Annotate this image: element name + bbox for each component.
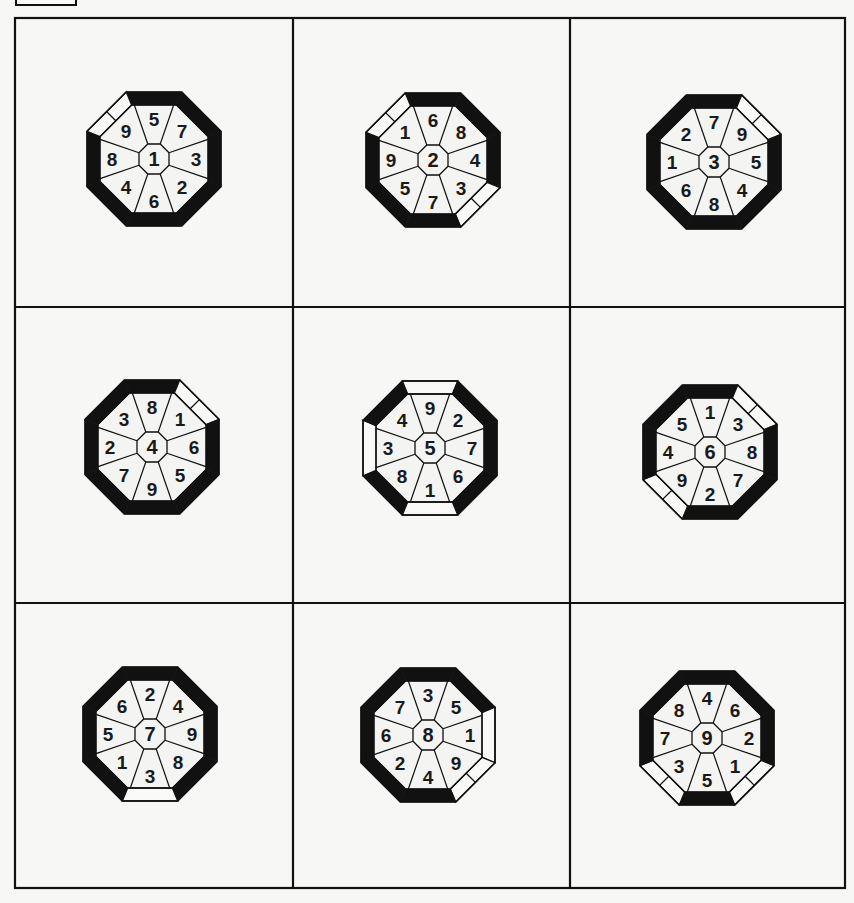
border-side-n-open (402, 381, 458, 394)
border-side-n-filled (679, 671, 735, 684)
region-label-ne: 7 (177, 121, 188, 142)
cells: 1573264892684375913795486124816597235927… (83, 92, 781, 805)
center-number: 2 (427, 149, 438, 171)
region-label-s: 8 (709, 194, 720, 215)
region-label-ne: 6 (730, 700, 741, 721)
octagon-cell-2: 268437591 (366, 93, 500, 227)
border-side-s-filled (124, 501, 180, 514)
region-label-w: 2 (105, 437, 116, 458)
region-label-e: 3 (191, 149, 202, 170)
region-label-nw: 2 (681, 124, 692, 145)
center-number: 9 (701, 727, 712, 749)
magic-square-octagon-grid: 1573264892684375913795486124816597235927… (0, 0, 854, 903)
region-label-ne: 5 (451, 697, 462, 718)
border-side-w-filled (647, 134, 660, 190)
border-side-e-filled (484, 420, 497, 476)
region-label-e: 9 (187, 724, 198, 745)
region-label-se: 6 (453, 466, 464, 487)
region-label-n: 4 (702, 688, 713, 709)
border-side-e-filled (204, 706, 217, 762)
region-label-se: 7 (733, 470, 744, 491)
region-label-n: 1 (705, 402, 716, 423)
border-side-n-filled (686, 95, 742, 108)
region-label-nw: 4 (397, 410, 408, 431)
border-side-e-filled (487, 132, 500, 188)
region-label-w: 4 (663, 442, 674, 463)
border-side-e-filled (764, 424, 777, 480)
border-side-n-filled (126, 92, 182, 105)
region-label-n: 6 (428, 110, 439, 131)
center-number: 5 (424, 437, 435, 459)
region-label-e: 6 (189, 437, 200, 458)
region-label-nw: 5 (677, 414, 688, 435)
border-side-n-filled (405, 93, 461, 106)
region-label-sw: 3 (674, 756, 685, 777)
region-label-w: 8 (107, 149, 118, 170)
border-side-w-filled (643, 424, 656, 480)
region-label-w: 1 (667, 152, 678, 173)
region-label-w: 5 (103, 724, 114, 745)
region-label-ne: 2 (453, 410, 464, 431)
region-label-sw: 9 (677, 470, 688, 491)
border-side-e-open (482, 707, 495, 763)
region-label-ne: 9 (737, 124, 748, 145)
region-label-nw: 6 (117, 696, 128, 717)
region-label-sw: 1 (117, 752, 128, 773)
region-label-n: 5 (149, 109, 160, 130)
region-label-e: 4 (470, 150, 481, 171)
border-side-e-filled (206, 419, 219, 475)
region-label-n: 7 (709, 112, 720, 133)
octagon-cell-1: 157326489 (87, 92, 221, 226)
border-side-n-filled (122, 667, 178, 680)
region-label-se: 8 (173, 752, 184, 773)
region-label-s: 2 (705, 484, 716, 505)
center-number: 3 (708, 151, 719, 173)
center-number: 7 (144, 723, 155, 745)
region-label-sw: 2 (395, 753, 406, 774)
region-label-e: 8 (747, 442, 758, 463)
region-label-sw: 4 (121, 177, 132, 198)
region-label-n: 9 (425, 398, 436, 419)
border-side-e-filled (761, 710, 774, 766)
border-side-e-filled (208, 131, 221, 187)
region-label-ne: 1 (175, 409, 186, 430)
region-label-se: 9 (451, 753, 462, 774)
region-label-ne: 4 (173, 696, 184, 717)
border-side-n-filled (682, 385, 738, 398)
border-side-s-filled (405, 214, 461, 227)
border-side-w-filled (83, 706, 96, 762)
center-number: 8 (422, 724, 433, 746)
octagon-cell-8: 835194267 (361, 668, 495, 802)
border-side-w-filled (361, 707, 374, 763)
border-side-w-filled (85, 419, 98, 475)
border-side-n-filled (124, 380, 180, 393)
region-label-ne: 3 (733, 414, 744, 435)
region-label-n: 2 (145, 684, 156, 705)
region-label-w: 6 (381, 725, 392, 746)
region-label-s: 7 (428, 192, 439, 213)
border-side-s-open (402, 502, 458, 515)
region-label-se: 1 (730, 756, 741, 777)
center-number: 1 (148, 148, 159, 170)
region-label-sw: 5 (400, 178, 411, 199)
region-label-s: 4 (423, 767, 434, 788)
octagon-cell-9: 946215378 (640, 671, 774, 805)
border-side-s-open (122, 788, 178, 801)
region-label-e: 1 (465, 725, 476, 746)
region-label-se: 5 (175, 465, 186, 486)
border-side-w-filled (87, 131, 100, 187)
region-label-nw: 9 (121, 121, 132, 142)
region-label-ne: 8 (456, 122, 467, 143)
border-side-s-filled (686, 216, 742, 229)
region-label-nw: 7 (395, 697, 406, 718)
region-label-nw: 1 (400, 122, 411, 143)
region-label-w: 3 (383, 438, 394, 459)
octagon-cell-5: 592761834 (363, 381, 497, 515)
region-label-se: 2 (177, 177, 188, 198)
region-label-sw: 8 (397, 466, 408, 487)
octagon-cell-7: 724983156 (83, 667, 217, 801)
region-label-se: 4 (737, 180, 748, 201)
region-label-s: 3 (145, 766, 156, 787)
border-side-s-filled (679, 792, 735, 805)
region-label-s: 1 (425, 480, 436, 501)
